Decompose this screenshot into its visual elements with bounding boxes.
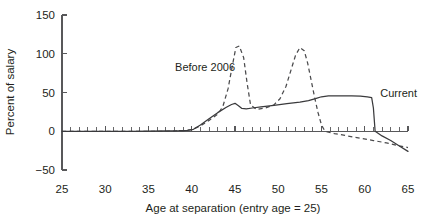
x-tick-label: 35: [142, 183, 155, 195]
x-tick-label: 60: [358, 183, 371, 195]
y-tick-label: 0: [49, 125, 55, 137]
y-axis-tick-labels: −50050100150: [35, 9, 55, 176]
x-axis-title: Age at separation (entry age = 25): [146, 202, 321, 214]
x-axis: 253035404550556065 Age at separation (en…: [56, 126, 415, 214]
x-tick-label: 55: [315, 183, 328, 195]
y-tick-label: 50: [42, 87, 55, 99]
x-tick-label: 50: [272, 183, 285, 195]
x-tick-label: 30: [99, 183, 112, 195]
y-tick-label: 150: [36, 9, 55, 21]
series-label-current: Current: [380, 87, 417, 99]
plot-series: [62, 46, 408, 151]
series-annotations: Before 2006 Current: [175, 61, 417, 99]
percent-of-salary-line-chart: −50050100150 Percent of salary 253035404…: [0, 0, 429, 223]
x-tick-label: 65: [402, 183, 415, 195]
y-axis: −50050100150 Percent of salary: [4, 9, 67, 176]
series-label-before-2006: Before 2006: [175, 61, 235, 73]
x-tick-label: 40: [185, 183, 198, 195]
x-tick-label: 25: [56, 183, 69, 195]
y-axis-ticks: [62, 15, 67, 170]
series-line-current: [62, 96, 408, 152]
y-axis-title: Percent of salary: [4, 49, 16, 136]
series-line-before-2006: [62, 46, 408, 148]
y-tick-label: 100: [36, 48, 55, 60]
x-tick-label: 45: [229, 183, 242, 195]
x-axis-tick-labels: 253035404550556065: [56, 183, 415, 195]
y-tick-label: −50: [35, 164, 55, 176]
chart-container: −50050100150 Percent of salary 253035404…: [0, 0, 429, 223]
